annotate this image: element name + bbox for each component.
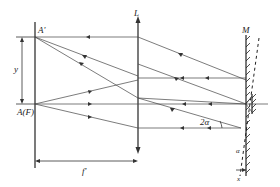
label-double-angle: 2α (200, 117, 210, 127)
label-image-point: A' (37, 25, 46, 35)
focal-length-dimension (35, 159, 138, 163)
label-angle: α (236, 147, 240, 155)
label-mirror: M (241, 25, 250, 35)
label-focal-length: f' (82, 166, 88, 176)
optical-lever-diagram: A' y A(F) f' L M 2α α x (0, 0, 280, 187)
y-dimension (16, 37, 35, 104)
label-focal-point: A(F) (16, 107, 34, 117)
optical-axis (35, 102, 268, 106)
light-rays (35, 35, 246, 130)
label-mirror-shift: x (236, 175, 241, 183)
label-lens: L (133, 8, 139, 18)
label-displacement: y (13, 64, 18, 74)
